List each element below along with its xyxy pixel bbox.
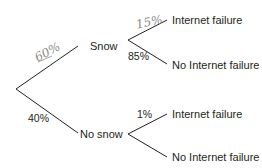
probability-snow-no-internet-failure: 85% [128, 50, 149, 62]
branch-nosnow-to-no-internet-failure [128, 134, 167, 157]
probability-nosnow-internet-failure: 1% [137, 108, 152, 120]
node-snow-internet-failure: Internet failure [172, 14, 242, 26]
node-nosnow-no-internet-failure: No Internet failure [172, 151, 259, 163]
node-snow: Snow [90, 40, 118, 52]
node-snow-no-internet-failure: No Internet failure [172, 59, 259, 71]
branch-root-to-no-snow [16, 89, 78, 133]
probability-no-snow: 40% [28, 112, 49, 124]
node-nosnow-internet-failure: Internet failure [172, 108, 242, 120]
node-no-snow: No snow [80, 128, 123, 140]
